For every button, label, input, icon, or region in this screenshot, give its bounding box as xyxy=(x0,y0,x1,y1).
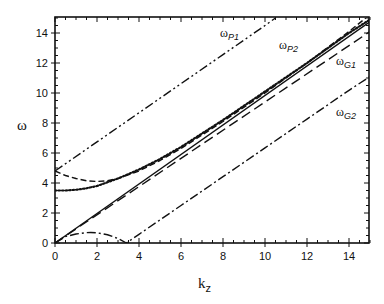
x-tick-label: 2 xyxy=(94,250,100,262)
x-tick-label: 6 xyxy=(178,250,184,262)
y-tick-label: 10 xyxy=(36,87,48,99)
label-omega-p2-main: ω xyxy=(279,38,287,52)
x-tick-label: 10 xyxy=(259,250,271,262)
x-tick-label: 12 xyxy=(301,250,313,262)
label-omega-g1-main: ω xyxy=(336,54,344,68)
label-omega-g2-sub: G2 xyxy=(344,111,356,121)
y-tick-label: 8 xyxy=(42,117,48,129)
curves-group xyxy=(55,18,370,243)
x-tick-label: 0 xyxy=(52,250,58,262)
x-tick-label: 4 xyxy=(136,250,142,262)
y-tick-label: 6 xyxy=(42,147,48,159)
curve-light-line xyxy=(55,22,370,243)
curve--p2 xyxy=(55,18,366,182)
x-axis-label: kz xyxy=(198,275,211,294)
x-tick-label: 14 xyxy=(343,250,355,262)
curve--g2 xyxy=(55,77,370,244)
y-tick-label: 2 xyxy=(42,207,48,219)
label-omega-p2: ωP2 xyxy=(279,38,298,54)
label-omega-g2: ωG2 xyxy=(336,105,356,121)
curve--p1 xyxy=(55,18,276,171)
y-tick-label: 12 xyxy=(36,57,48,69)
label-omega-p1-main: ω xyxy=(220,26,228,40)
curve--p2-lower xyxy=(55,20,370,191)
curve--g1 xyxy=(55,32,370,244)
label-omega-g1-sub: G1 xyxy=(344,60,356,70)
x-axis-label-sub: z xyxy=(206,282,212,294)
label-omega-p2-sub: P2 xyxy=(287,44,298,54)
label-omega-g1: ωG1 xyxy=(336,54,356,70)
dispersion-chart: 0246810121402468101214 ω kz ωP1 ωP2 ωG1 … xyxy=(0,0,384,304)
label-omega-g2-main: ω xyxy=(336,105,344,119)
label-omega-p1-sub: P1 xyxy=(228,32,239,42)
y-axis-label: ω xyxy=(17,117,27,133)
y-tick-label: 0 xyxy=(42,237,48,249)
y-tick-label: 4 xyxy=(42,177,48,189)
label-omega-p1: ωP1 xyxy=(220,26,239,42)
x-tick-label: 8 xyxy=(220,250,226,262)
y-tick-label: 14 xyxy=(36,27,48,39)
